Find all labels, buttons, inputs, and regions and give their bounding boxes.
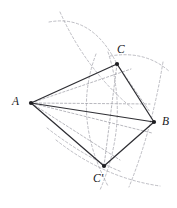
- segment-CprimeB: [104, 122, 154, 166]
- dashed-arcs-group: [47, 12, 170, 190]
- vertex-label-C: C: [117, 44, 125, 56]
- arc-upper-left-to-C: [49, 21, 117, 64]
- segment-CB: [117, 64, 154, 122]
- vertex-dot-A: [29, 101, 33, 105]
- construction-A-lower: [31, 103, 120, 160]
- geometry-figure: A B C C′: [0, 0, 177, 208]
- vertex-dot-B: [152, 120, 156, 124]
- geometry-canvas: [0, 0, 177, 208]
- vertex-label-Cprime: C′: [93, 173, 103, 185]
- vertex-label-A: A: [12, 96, 19, 108]
- vertex-dots-group: [29, 62, 156, 168]
- dashed-construction-lines-group: [31, 64, 152, 166]
- arc-upper-diagonal: [60, 12, 132, 108]
- segment-AC: [31, 64, 117, 103]
- arc-through-C-right: [110, 55, 170, 72]
- arc-lower-left-small: [47, 128, 122, 172]
- construction-A-mid-upper: [31, 103, 150, 104]
- vertex-label-B: B: [162, 116, 169, 128]
- arc-right-long: [129, 62, 163, 187]
- vertex-dot-Cprime: [102, 164, 106, 168]
- vertex-dot-C: [115, 62, 119, 66]
